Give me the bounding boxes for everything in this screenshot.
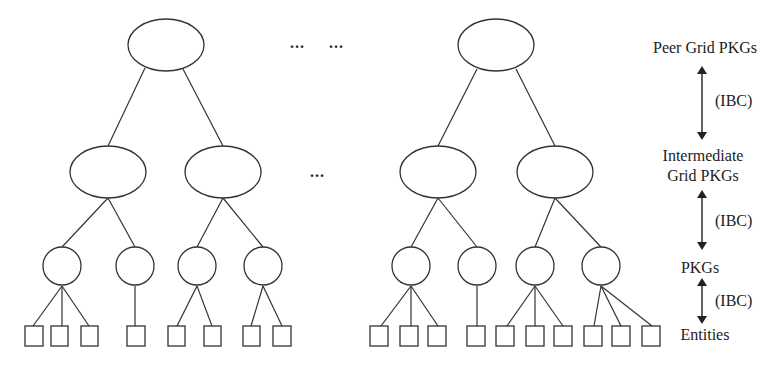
entity-node	[554, 326, 572, 346]
ibc-label: (IBC)	[715, 292, 752, 310]
intermediate-grid-pkg-node	[185, 146, 261, 198]
pkg-node	[43, 247, 81, 285]
entity-node	[168, 326, 185, 346]
level-legend: Peer Grid PKGs (IBC) Intermediate Grid P…	[653, 39, 757, 343]
pkg-node	[244, 247, 282, 285]
right-tree	[370, 19, 660, 346]
pkg-node	[582, 247, 620, 285]
left-tree	[25, 19, 291, 346]
level-label-intermediate-line2: Grid PKGs	[667, 167, 739, 184]
pkg-node	[116, 247, 154, 285]
entity-node	[25, 326, 43, 346]
level-label-pkgs: PKGs	[681, 259, 719, 276]
level-label-peer-grid-pkgs: Peer Grid PKGs	[653, 39, 757, 56]
intermediate-grid-pkg-node	[70, 146, 146, 198]
pkg-node	[392, 247, 430, 285]
entity-node	[526, 326, 544, 346]
entity-node	[467, 326, 485, 346]
grid-pkg-hierarchy-diagram: ... ... ...	[0, 0, 780, 367]
ibc-label: (IBC)	[715, 212, 752, 230]
entity-node	[51, 326, 68, 346]
peer-grid-pkg-node	[458, 19, 534, 71]
ellipsis-top-1: ...	[290, 34, 305, 51]
pkg-node	[516, 247, 554, 285]
entity-node	[428, 326, 446, 346]
level-label-entities: Entities	[681, 326, 730, 343]
entity-node	[127, 326, 145, 346]
entity-node	[81, 326, 98, 346]
intermediate-grid-pkg-node	[400, 146, 476, 198]
entity-node	[273, 326, 291, 346]
entity-node	[496, 326, 514, 346]
entity-node	[204, 326, 221, 346]
entity-node	[243, 326, 260, 346]
entity-node	[612, 326, 630, 346]
ibc-label: (IBC)	[715, 92, 752, 110]
entity-node	[584, 326, 602, 346]
intermediate-grid-pkg-node	[517, 146, 593, 198]
entity-node	[642, 326, 660, 346]
pkg-node	[178, 247, 216, 285]
ellipsis-middle: ...	[310, 163, 325, 180]
entity-node	[370, 326, 388, 346]
entity-node	[400, 326, 418, 346]
peer-grid-pkg-node	[128, 19, 204, 71]
ellipsis-top-2: ...	[329, 34, 344, 51]
level-label-intermediate-line1: Intermediate	[663, 147, 744, 164]
pkg-node	[458, 247, 496, 285]
